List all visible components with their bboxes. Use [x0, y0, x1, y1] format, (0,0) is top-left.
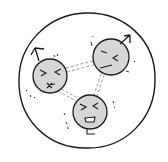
link-left-bottom — [58, 89, 78, 101]
arrow-up-right-icon — [120, 35, 130, 44]
sketch-canvas — [0, 0, 168, 162]
link-left-right — [66, 60, 97, 72]
arrow-up-left-icon — [31, 48, 44, 61]
link-right-bottom — [94, 74, 104, 96]
illustration — [0, 0, 168, 162]
right-face — [91, 35, 135, 75]
left-face — [26, 48, 67, 98]
bottom-face-mouth — [85, 117, 95, 122]
bottom-face — [64, 95, 115, 134]
